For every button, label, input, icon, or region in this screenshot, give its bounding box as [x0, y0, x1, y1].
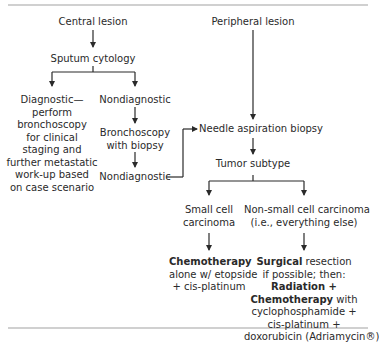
non-small-cell-line: Non-small cell carcinoma: [244, 204, 364, 217]
treatment-bold: Chemotherapy: [169, 256, 252, 267]
treatment-text: with: [333, 294, 357, 305]
diagnostic-line: work-up based: [2, 169, 102, 182]
treatment-line: cyclophosphamide +: [244, 306, 364, 319]
diagnostic-line: further metastatic: [2, 157, 102, 170]
bronchoscopy-line: Bronchoscopy: [95, 127, 175, 140]
diagnostic-line: on case scenario: [2, 182, 102, 195]
node-nondiagnostic-2: Nondiagnostic: [95, 171, 175, 184]
diagnostic-line: perform: [2, 107, 102, 120]
diagnostic-line: for clinical: [2, 132, 102, 145]
node-small-cell-treatment: Chemotherapy alone w/ etopside + cis-pla…: [169, 256, 249, 294]
small-cell-line: carcinoma: [174, 217, 244, 230]
node-sputum-cytology: Sputum cytology: [43, 53, 143, 66]
node-diagnostic: Diagnostic— perform bronchoscopy for cli…: [2, 94, 102, 194]
node-peripheral-lesion: Peripheral lesion: [203, 16, 303, 29]
node-non-small-cell-treatment: Surgical resection if possible; then: Ra…: [244, 256, 364, 344]
node-bronchoscopy-biopsy: Bronchoscopy with biopsy: [95, 127, 175, 152]
node-central-lesion: Central lesion: [43, 16, 143, 29]
non-small-cell-line: (i.e., everything else): [244, 217, 364, 230]
node-non-small-cell: Non-small cell carcinoma (i.e., everythi…: [244, 204, 364, 229]
treatment-bold: Radiation +: [271, 281, 337, 292]
node-nondiagnostic-1: Nondiagnostic: [95, 94, 175, 107]
treatment-line: cis-platinum +: [244, 319, 364, 332]
treatment-line: alone w/ etopside: [169, 269, 249, 282]
treatment-line: if possible; then:: [244, 269, 364, 282]
treatment-text: resection: [302, 256, 351, 267]
node-needle-biopsy: Needle aspiration biopsy: [199, 123, 309, 136]
treatment-bold: Chemotherapy: [251, 294, 334, 305]
diagnostic-line: staging and: [2, 144, 102, 157]
diagnostic-line: Diagnostic—: [2, 94, 102, 107]
treatment-line: + cis-platinum: [169, 281, 249, 294]
bronchoscopy-line: with biopsy: [95, 140, 175, 153]
diagnostic-line: bronchoscopy: [2, 119, 102, 132]
node-small-cell: Small cell carcinoma: [174, 204, 244, 229]
treatment-line: doxorubicin (Adriamycin®): [244, 331, 364, 344]
node-tumor-subtype: Tumor subtype: [203, 158, 303, 171]
small-cell-line: Small cell: [174, 204, 244, 217]
treatment-bold: Surgical: [256, 256, 302, 267]
